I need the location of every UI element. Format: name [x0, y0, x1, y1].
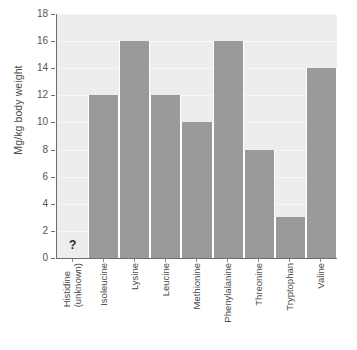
x-axis-tick-mark	[258, 259, 259, 262]
x-axis-tick-slot: Phenylalanine	[212, 259, 243, 349]
bar	[244, 150, 275, 258]
bar-slot	[181, 14, 212, 258]
x-axis-tick-label: Histidine(unknown)	[61, 263, 83, 307]
bar-series: ?	[57, 14, 337, 258]
y-axis-tick-label: 2	[42, 226, 48, 236]
y-axis-tick-mark	[51, 258, 55, 259]
bar-slot	[275, 14, 306, 258]
y-axis-tick-label: 18	[37, 9, 48, 19]
bar-slot: ?	[57, 14, 88, 258]
y-axis-tick-label: 8	[42, 145, 48, 155]
x-axis-tick-label: Lysine	[128, 263, 139, 290]
y-axis-tick-mark	[51, 122, 55, 123]
plot-area: ?	[56, 14, 337, 259]
x-axis-tick-mark	[134, 259, 135, 262]
x-axis-tick-slot: Methionine	[180, 259, 211, 349]
y-axis-tick-label: 6	[42, 172, 48, 182]
x-axis-tick-slot: Tryptophan	[274, 259, 305, 349]
x-axis-tick-label: Tryptophan	[284, 263, 295, 311]
y-axis-tick-mark	[51, 150, 55, 151]
x-axis-tick-mark	[227, 259, 228, 262]
y-axis-tick-label: 10	[37, 117, 48, 127]
x-axis-tick-label: Phenylalanine	[222, 263, 233, 323]
y-axis-tick-mark	[51, 204, 55, 205]
bar	[150, 95, 181, 258]
x-axis-tick-slot: Histidine(unknown)	[56, 259, 87, 349]
bar-slot	[306, 14, 337, 258]
x-axis-tick-slot: Leucine	[149, 259, 180, 349]
y-axis-tick-mark	[51, 41, 55, 42]
y-axis-tick-mark	[51, 231, 55, 232]
x-axis-tick-mark	[289, 259, 290, 262]
x-axis-tick-slot: Isoleucine	[87, 259, 118, 349]
x-axis-tick-slot: Lysine	[118, 259, 149, 349]
x-axis-tick-mark	[165, 259, 166, 262]
x-axis-tick-slot: Valine	[305, 259, 336, 349]
bar-chart-figure: Mg/kg body weight 024681012141618 ? Hist…	[0, 0, 357, 350]
x-axis-tick-container: Histidine(unknown)IsoleucineLysineLeucin…	[56, 259, 336, 349]
y-axis-tick-mark	[51, 68, 55, 69]
unknown-value-marker: ?	[57, 238, 88, 252]
bar-slot	[244, 14, 275, 258]
x-axis-tick-label: Leucine	[159, 263, 170, 296]
x-axis-tick-label: Valine	[315, 263, 326, 289]
x-axis-tick-mark	[103, 259, 104, 262]
bar-slot	[213, 14, 244, 258]
bar-slot	[119, 14, 150, 258]
bar-slot	[150, 14, 181, 258]
y-axis-tick-mark	[51, 14, 55, 15]
y-axis-tick-label: 14	[37, 63, 48, 73]
x-axis-tick-slot: Threonine	[243, 259, 274, 349]
y-axis-tick-container: 024681012141618	[0, 0, 56, 259]
bar	[275, 217, 306, 258]
x-axis-tick-mark	[72, 259, 73, 262]
y-axis-tick-label: 0	[42, 253, 48, 263]
y-axis-tick-mark	[51, 177, 55, 178]
bar	[119, 41, 150, 258]
bar-slot	[88, 14, 119, 258]
x-axis-tick-label: Isoleucine	[97, 263, 108, 306]
y-axis-tick-label: 16	[37, 36, 48, 46]
bar	[88, 95, 119, 258]
bar	[181, 122, 212, 258]
y-axis-tick-label: 4	[42, 199, 48, 209]
x-axis-tick-label: Methionine	[190, 263, 201, 309]
bar	[306, 68, 337, 258]
x-axis-tick-label: Threonine	[253, 263, 264, 306]
bar	[213, 41, 244, 258]
y-axis-tick-label: 12	[37, 90, 48, 100]
x-axis-tick-mark	[320, 259, 321, 262]
y-axis-tick-mark	[51, 95, 55, 96]
x-axis-tick-mark	[196, 259, 197, 262]
